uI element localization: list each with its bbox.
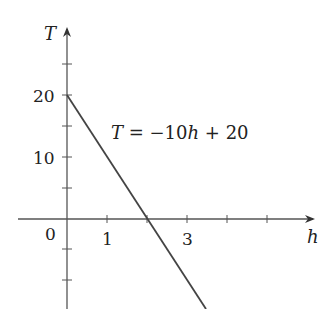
origin-label: 0 [45, 224, 56, 244]
x-tick-label-1: 1 [102, 229, 113, 249]
x-axis-label: h [307, 226, 319, 247]
equation-annotation: T = −10h + 20 [111, 122, 249, 143]
chart-canvas: T h 0 1 3 20 10 T = −10h + 20 [0, 0, 335, 309]
y-axis-label: T [44, 23, 58, 44]
y-tick-label-10: 10 [33, 148, 55, 168]
y-tick-label-20: 20 [33, 86, 55, 106]
x-tick-label-3: 3 [182, 229, 193, 249]
